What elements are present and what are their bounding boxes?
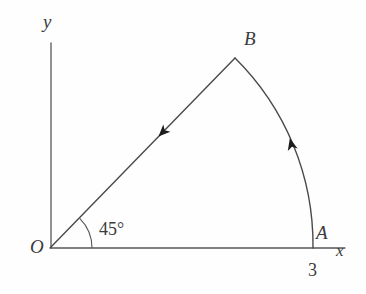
label-point-A: A <box>316 223 328 242</box>
geometry-figure: O A B x y 45° 3 <box>0 0 366 294</box>
figure-canvas <box>0 0 366 294</box>
segment-line-BO <box>51 58 236 248</box>
arc-AB <box>235 58 313 248</box>
label-radius-value: 3 <box>308 261 317 279</box>
label-y-axis: y <box>43 12 51 31</box>
label-point-O: O <box>30 237 44 256</box>
angle-marker-arc <box>80 218 92 248</box>
label-point-B: B <box>244 29 256 48</box>
label-angle-45-degrees: 45° <box>99 220 124 238</box>
label-x-axis: x <box>336 242 344 259</box>
